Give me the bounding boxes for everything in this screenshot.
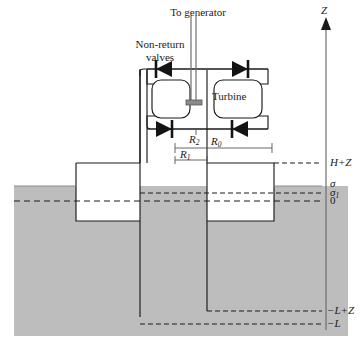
left-chamber-interior	[76, 163, 140, 221]
level-label-zero: 0	[330, 194, 336, 207]
level-label-minus-l: −L	[327, 317, 341, 330]
turbine-label: Turbine	[212, 90, 246, 103]
level-label-h-plus-z: H+Z	[330, 156, 351, 169]
dimension-label-r2: R2	[189, 133, 199, 146]
wave-energy-device-diagram: To generator Non-return valves Turbine R…	[0, 0, 362, 350]
dimension-label-r1: R1	[180, 148, 190, 161]
turbine-hub	[186, 100, 202, 105]
valve-bottom-right	[232, 120, 248, 138]
central-duct-interior	[140, 163, 207, 186]
z-axis-label: Z	[321, 4, 327, 17]
dimension-label-r0: R0	[211, 135, 221, 148]
air-chamber-left	[152, 80, 190, 118]
non-return-valves-label-line2: valves	[122, 51, 198, 64]
ground-fill	[14, 186, 348, 336]
right-chamber-interior	[207, 163, 274, 221]
valve-top-right	[232, 60, 248, 78]
non-return-valves-label-line1: Non-return	[122, 38, 198, 51]
valve-bottom-left	[156, 120, 172, 138]
level-label-minus-l-plus-z: −L+Z	[327, 304, 354, 317]
to-generator-label: To generator	[156, 6, 240, 19]
z-axis-arrowhead	[321, 17, 331, 30]
